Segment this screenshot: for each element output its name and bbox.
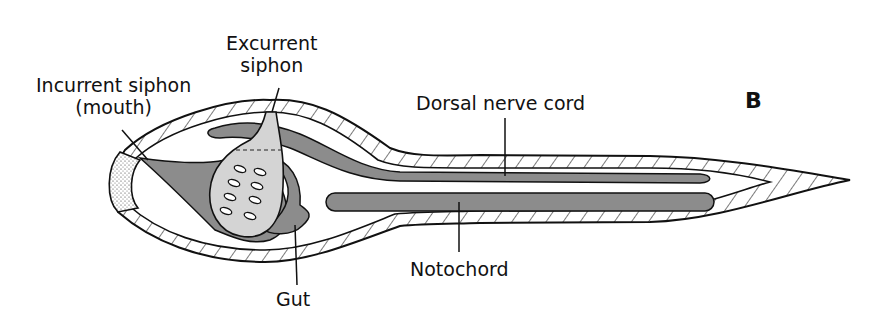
label-excurrent-line1: Excurrent (226, 32, 317, 54)
label-dorsal-nerve-cord: Dorsal nerve cord (416, 92, 585, 114)
label-incurrent-siphon: Incurrent siphon (mouth) (36, 74, 191, 118)
label-gut: Gut (276, 288, 310, 310)
panel-letter: B (745, 88, 762, 113)
label-notochord: Notochord (410, 258, 509, 280)
label-excurrent-siphon: Excurrent siphon (226, 32, 317, 76)
tunicate-larva-diagram: Incurrent siphon (mouth) Excurrent sipho… (0, 0, 886, 329)
label-incurrent-line2: (mouth) (36, 96, 191, 118)
notochord-shape (326, 193, 714, 211)
label-excurrent-line2: siphon (226, 54, 317, 76)
label-incurrent-line1: Incurrent siphon (36, 74, 191, 96)
